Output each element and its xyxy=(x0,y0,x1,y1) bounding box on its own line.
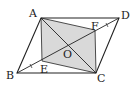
label-d: D xyxy=(121,9,130,22)
geometry-figure: A D B C O E F xyxy=(0,0,139,88)
label-a: A xyxy=(28,7,38,20)
label-b: B xyxy=(6,69,14,82)
label-o: O xyxy=(63,48,72,61)
parallelogram-diagram: A D B C O E F xyxy=(0,0,139,88)
label-c: C xyxy=(97,72,105,85)
label-e: E xyxy=(40,63,48,76)
label-f: F xyxy=(91,20,99,33)
